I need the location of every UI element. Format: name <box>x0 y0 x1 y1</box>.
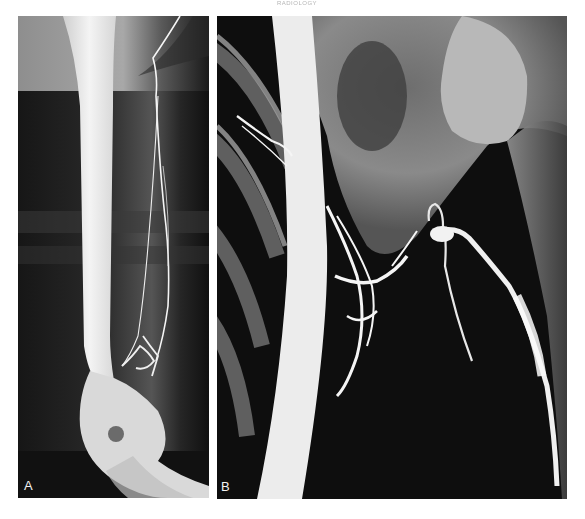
running-head: RADIOLOGY <box>262 0 332 6</box>
panel-label-b: B <box>221 480 230 493</box>
xray-arm-image <box>18 16 209 498</box>
panel-label-a: A <box>24 479 33 492</box>
figure-panel-b: B <box>217 16 567 499</box>
xray-shoulder-image <box>217 16 567 499</box>
figure-panel-a: A <box>18 16 209 498</box>
